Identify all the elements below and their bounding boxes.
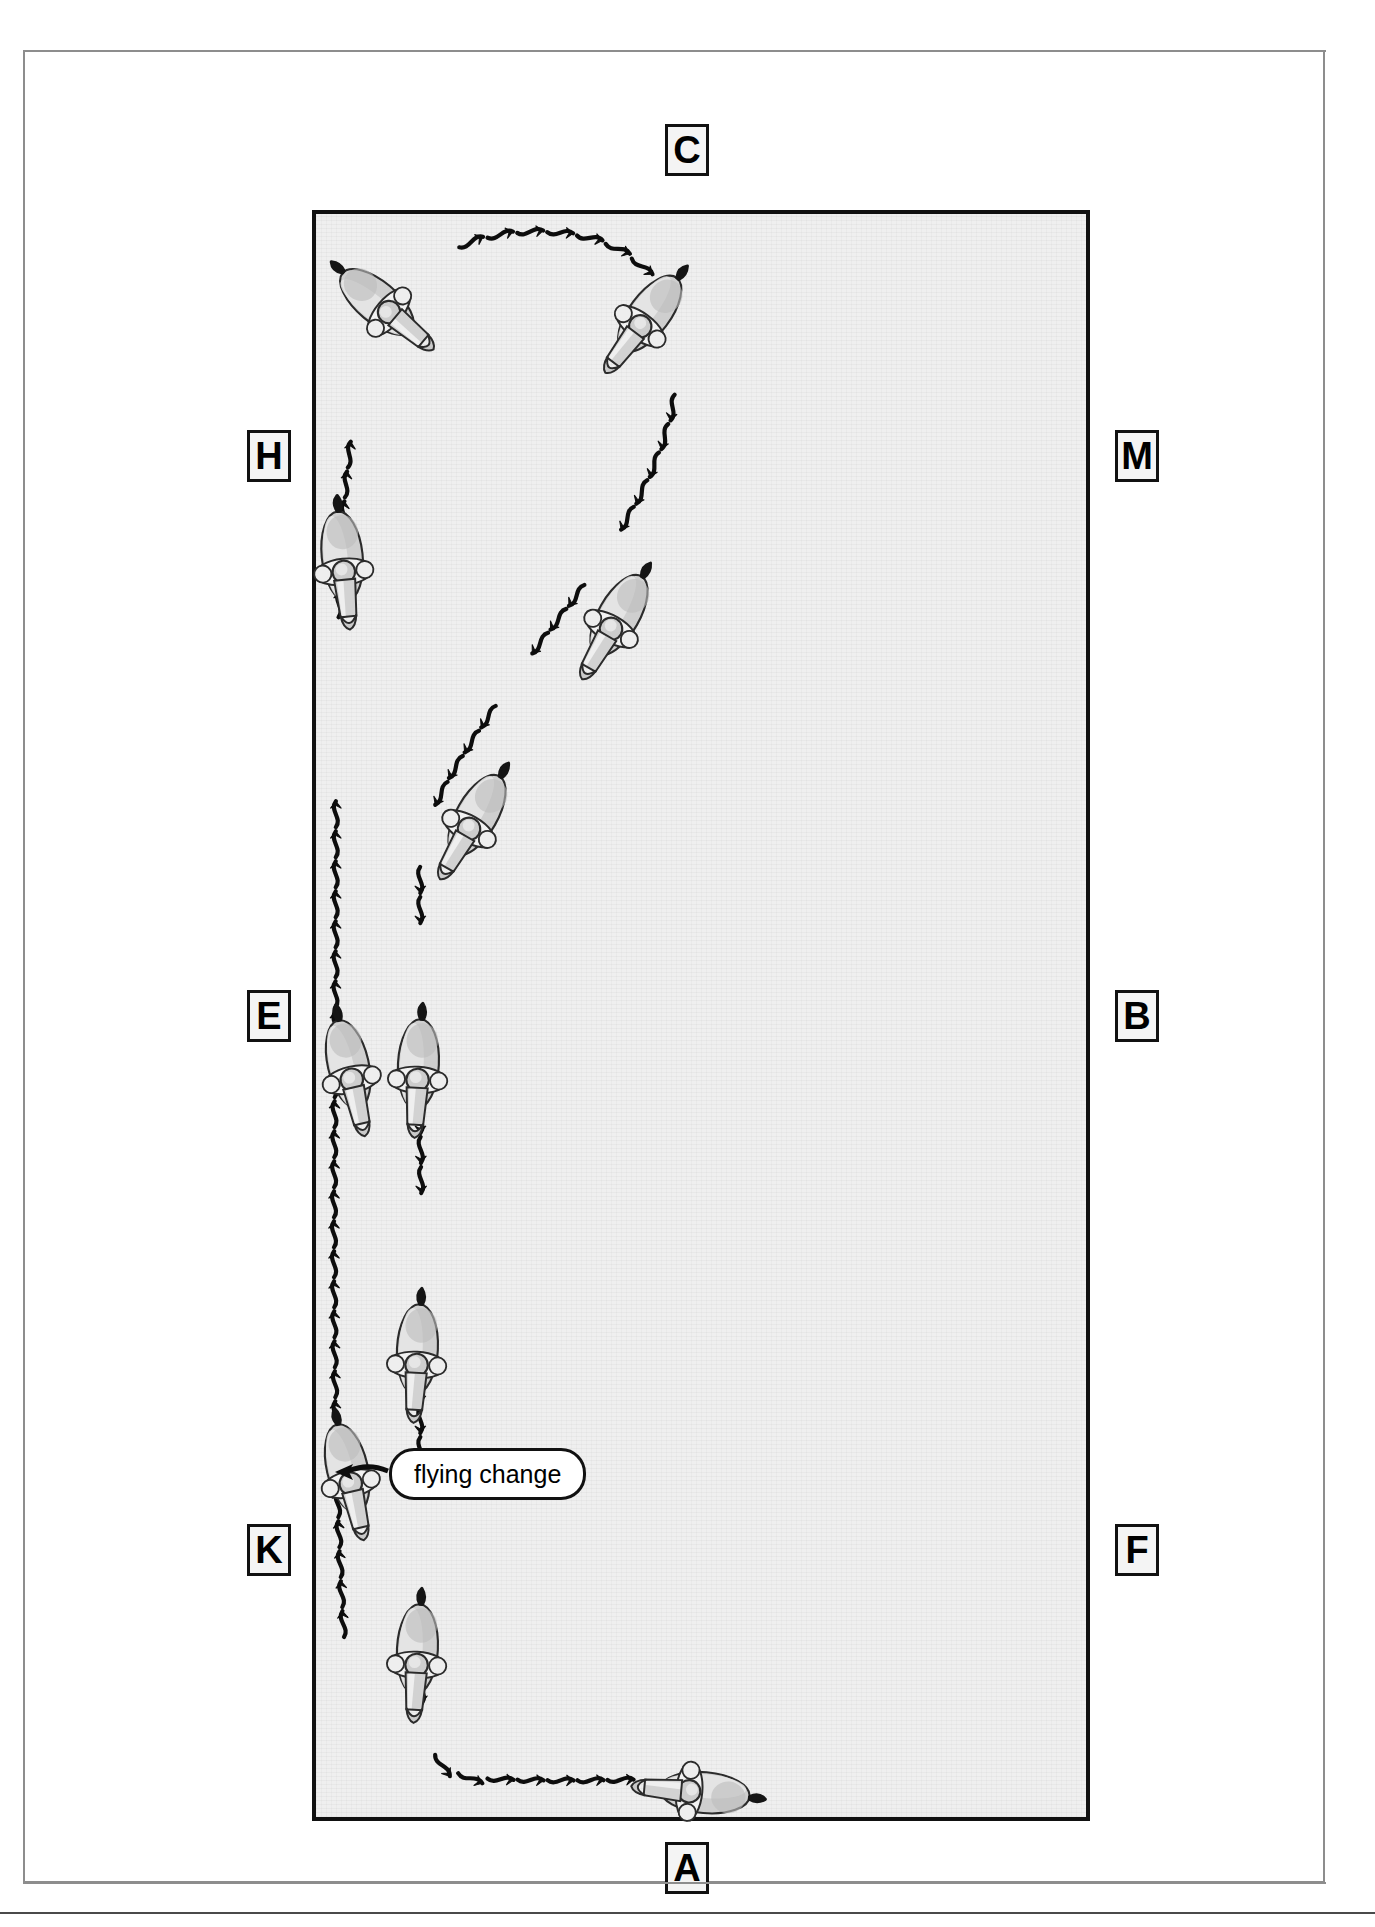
arena-letter-E: E: [247, 990, 291, 1042]
arena-letter-F-label: F: [1125, 1531, 1148, 1569]
arena-letter-M-label: M: [1121, 437, 1153, 475]
content-frame: flying change C H M E B K F A: [23, 50, 1325, 1883]
arena-letter-B-label: B: [1123, 997, 1150, 1035]
annotation-flying-change: flying change: [389, 1448, 586, 1500]
arena-letter-C-label: C: [673, 131, 700, 169]
page-rule-bottom-thin: [23, 1882, 1326, 1884]
arena-letter-H-label: H: [255, 437, 282, 475]
arena-letter-F: F: [1115, 1524, 1159, 1576]
page-rule-bottom-thick: [0, 1912, 1375, 1914]
arena-letter-A: A: [665, 1842, 709, 1894]
page-canvas: flying change C H M E B K F A: [0, 0, 1375, 1927]
arena-surface-texture: [316, 214, 1086, 1817]
arena-letter-K: K: [247, 1524, 291, 1576]
arena-letter-B: B: [1115, 990, 1159, 1042]
arena-letter-C: C: [665, 124, 709, 176]
dressage-arena: [312, 210, 1090, 1821]
arena-letter-K-label: K: [255, 1531, 282, 1569]
arena-letter-H: H: [247, 430, 291, 482]
arena-letter-E-label: E: [256, 997, 281, 1035]
arena-letter-M: M: [1115, 430, 1159, 482]
